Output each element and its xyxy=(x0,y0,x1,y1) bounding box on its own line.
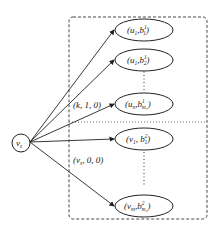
svg-text:(u1,b11): (u1,b11) xyxy=(127,24,149,36)
edge-to-u1-b21 xyxy=(30,60,114,142)
edge-to-v1-b12 xyxy=(30,139,114,142)
group-box xyxy=(69,17,207,219)
source-node: vs xyxy=(12,134,30,152)
node-un-bm1: (un,b1m₁) xyxy=(115,93,173,115)
svg-text:(u1,b12): (u1,b12) xyxy=(127,54,150,66)
edge-to-un-bm1 xyxy=(30,104,114,142)
node-u1-b11: (u1,b11) xyxy=(115,19,173,41)
bipartite-flow-diagram: vs (k, 1, 0) (vs, 0, 0) (u1,b11) (u1,b12… xyxy=(0,0,214,234)
edge-label-source: (vs, 0, 0) xyxy=(73,155,103,166)
svg-text:(un,b1m₁): (un,b1m₁) xyxy=(125,98,151,110)
svg-text:(vm,b2m₂): (vm,b2m₂) xyxy=(124,200,150,212)
node-u1-b21: (u1,b12) xyxy=(115,49,173,71)
edge-to-u1-b11 xyxy=(30,30,114,142)
node-v1-b12: (v1, b21) xyxy=(115,128,173,150)
edge-label-capacity: (k, 1, 0) xyxy=(73,100,101,110)
edge-to-vm-bm2 xyxy=(30,142,114,206)
node-vm-bm2: (vm,b2m₂) xyxy=(115,195,173,217)
edges xyxy=(30,30,114,206)
svg-text:(v1, b21): (v1, b21) xyxy=(126,133,150,145)
